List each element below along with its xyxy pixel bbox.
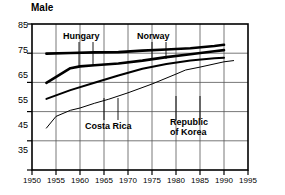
annotation-republic-of-korea: Republic of Korea: [170, 117, 208, 137]
chart-root: Male 85 75 65 55 45 35 1950 1955 1960 19…: [0, 0, 285, 195]
annotation-costa-rica: Costa Rica: [85, 121, 132, 131]
annotation-hungary: Hungary: [63, 31, 100, 41]
annotation-norway: Norway: [137, 31, 170, 41]
plot-area: [0, 0, 285, 195]
series-line-costa-rica: [46, 58, 224, 99]
annotation-korea-line1: Republic: [170, 117, 208, 127]
annotation-korea-line2: of Korea: [170, 127, 207, 137]
series-line-hungary: [46, 50, 224, 83]
